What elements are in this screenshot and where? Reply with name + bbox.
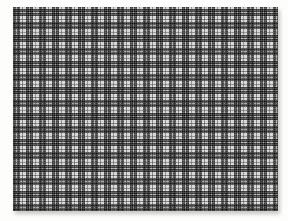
- photo-background: [0, 0, 288, 221]
- plaid-fabric-swatch: [13, 7, 278, 211]
